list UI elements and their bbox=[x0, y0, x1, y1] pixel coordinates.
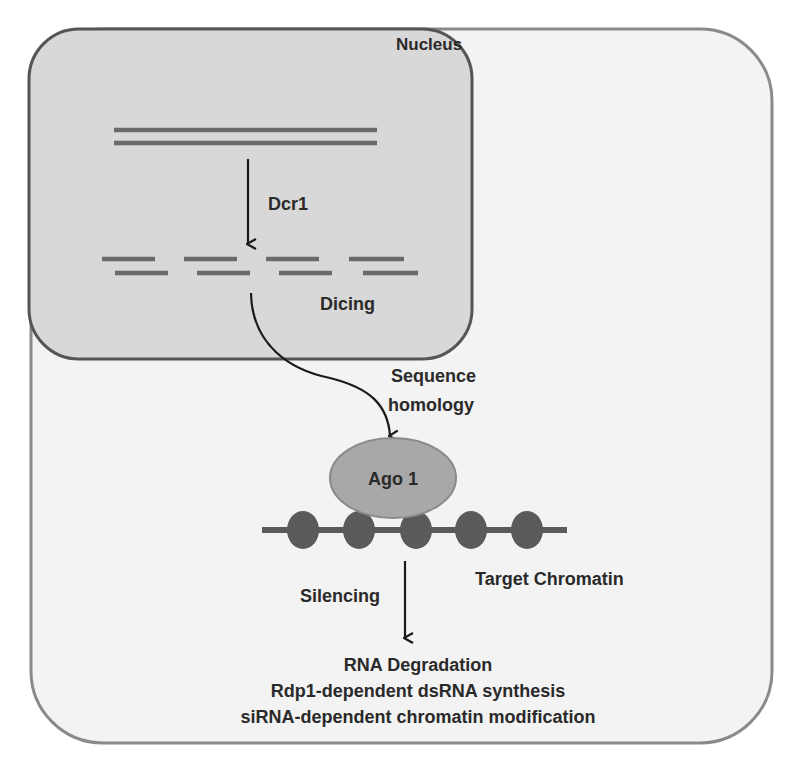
outcome-rna-degradation: RNA Degradation bbox=[344, 655, 492, 675]
outcome-sirna-chromatin-modification: siRNA-dependent chromatin modification bbox=[240, 707, 595, 727]
rnai-pathway-diagram: Nucleus Dcr1 Dicing Sequence homology Ag… bbox=[0, 0, 794, 767]
nucleus-compartment bbox=[29, 29, 472, 359]
nucleus-label: Nucleus bbox=[396, 35, 462, 54]
dcr1-label: Dcr1 bbox=[268, 194, 308, 214]
outcome-rdp1-dsrna-synthesis: Rdp1-dependent dsRNA synthesis bbox=[271, 681, 565, 701]
silencing-label: Silencing bbox=[300, 586, 380, 606]
ago1-label: Ago 1 bbox=[368, 469, 418, 489]
nucleosome bbox=[455, 511, 487, 549]
nucleosome bbox=[287, 511, 319, 549]
target-chromatin-label: Target Chromatin bbox=[475, 569, 624, 589]
nucleosome bbox=[343, 511, 375, 549]
dicing-label: Dicing bbox=[320, 294, 375, 314]
homology-label: homology bbox=[388, 395, 474, 415]
sequence-label: Sequence bbox=[391, 366, 476, 386]
nucleosome bbox=[511, 511, 543, 549]
